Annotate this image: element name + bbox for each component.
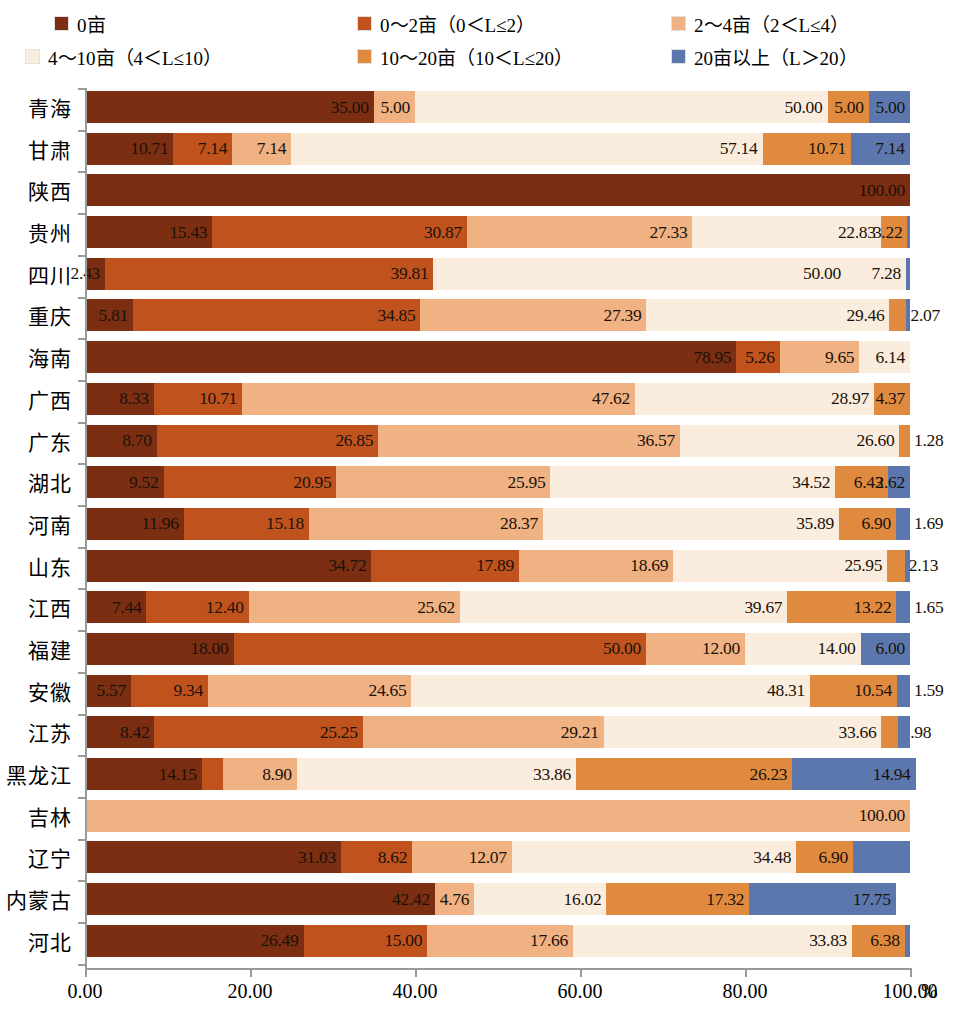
segment-value-label: 10.54 — [854, 680, 897, 701]
y-axis-label: 江西 — [28, 592, 72, 622]
legend-swatch-2to4mu — [672, 17, 685, 30]
chart-row: 甘肃10.717.147.1457.1410.717.14 — [85, 130, 910, 168]
bar-segment: 28.37 — [309, 508, 543, 540]
y-axis-label: 吉林 — [28, 801, 72, 831]
segment-value-label: 7.28 — [872, 263, 906, 284]
y-axis-tick — [78, 672, 85, 674]
bar-segment: 26.60 — [680, 425, 899, 457]
stacked-bar: 11.9615.1828.3735.896.901.69 — [85, 508, 910, 540]
segment-value-label: 2.07 — [906, 305, 939, 326]
x-axis-tick — [250, 968, 252, 977]
y-axis — [85, 88, 87, 968]
bar-segment: 8.62 — [341, 841, 412, 873]
chart-row: 河南11.9615.1828.3735.896.901.69 — [85, 505, 910, 543]
segment-value-label: 30.87 — [424, 222, 467, 243]
y-axis-tick — [78, 422, 85, 424]
chart-row: 贵州15.4330.8727.3322.833.22 — [85, 213, 910, 251]
bar-segment: 3.22 — [881, 216, 908, 248]
segment-value-label: 10.71 — [130, 138, 173, 159]
stacked-bar: 35.005.0050.005.005.00 — [85, 91, 910, 123]
y-axis-label: 海南 — [28, 342, 72, 372]
bar-segment: 4.76 — [435, 883, 474, 915]
chart-row: 河北26.4915.0017.6633.836.38 — [85, 922, 910, 960]
legend-item-over20mu: 20亩以上（L＞20） — [672, 43, 858, 70]
bar-segment — [906, 258, 910, 290]
bar-segment: 35.89 — [543, 508, 839, 540]
stacked-bar-chart: 青海35.005.0050.005.005.00甘肃10.717.147.145… — [0, 82, 956, 1012]
bar-segment — [906, 299, 909, 331]
legend-item-0mu: 0亩 — [55, 10, 106, 37]
y-axis-label: 陕西 — [28, 175, 72, 205]
stacked-bar: 5.8134.8527.3929.462.07 — [85, 299, 910, 331]
y-axis-label: 湖北 — [28, 467, 72, 497]
bar-segment: 17.32 — [606, 883, 749, 915]
bar-segment: 39.81 — [105, 258, 433, 290]
chart-row: 黑龙江14.158.9033.8626.2314.94 — [85, 755, 910, 793]
y-axis-label: 江苏 — [28, 717, 72, 747]
bar-segment: 6.90 — [839, 508, 896, 540]
segment-value-label: 8.33 — [119, 388, 153, 409]
y-axis-label: 山东 — [28, 551, 72, 581]
segment-value-label: 6.90 — [819, 847, 853, 868]
bar-segment: 25.95 — [673, 550, 887, 582]
segment-value-label: 2.62 — [875, 472, 909, 493]
chart-row: 江苏8.4225.2529.2133.661.98 — [85, 713, 910, 751]
segment-value-label: 14.94 — [873, 764, 916, 785]
legend-label-over20mu: 20亩以上（L＞20） — [694, 43, 858, 70]
segment-value-label: 12.07 — [469, 847, 512, 868]
segment-value-label: 6.38 — [870, 930, 904, 951]
bar-segment: 27.39 — [420, 299, 646, 331]
y-axis-label: 福建 — [28, 634, 72, 664]
segment-value-label: 12.00 — [702, 638, 745, 659]
legend-swatch-0to2mu — [358, 17, 371, 30]
legend-swatch-10to20mu — [358, 50, 371, 63]
segment-value-label: 17.32 — [706, 889, 749, 910]
bar-segment: 48.31 — [411, 675, 810, 707]
stacked-bar: 8.3310.7147.6228.974.37 — [85, 383, 910, 415]
segment-value-label: 35.89 — [796, 513, 839, 534]
bar-segment: 25.95 — [336, 466, 550, 498]
x-axis-tick — [910, 968, 912, 977]
segment-value-label: 18.00 — [191, 638, 234, 659]
legend-item-4to10mu: 4～10亩（4＜L≤10） — [26, 43, 222, 70]
segment-value-label: 3.22 — [873, 222, 907, 243]
chart-row: 内蒙古42.424.7616.0217.3217.75 — [85, 880, 910, 918]
segment-value-label: 57.14 — [720, 138, 763, 159]
segment-value-label: 1.28 — [910, 430, 943, 451]
chart-row: 广西8.3310.7147.6228.974.37 — [85, 380, 910, 418]
bar-segment: 14.94 — [792, 758, 915, 790]
bar-segment: 34.85 — [133, 299, 421, 331]
bar-segment: 14.15 — [85, 758, 202, 790]
segment-value-label: 50.00 — [785, 97, 828, 118]
segment-value-label: 34.52 — [792, 472, 835, 493]
bar-segment: 10.71 — [763, 133, 851, 165]
segment-value-label: 33.83 — [809, 930, 852, 951]
bar-segment: 8.42 — [85, 716, 154, 748]
bar-segment: 15.43 — [85, 216, 212, 248]
bar-segment: 5.00 — [828, 91, 869, 123]
bar-segment: 6.00 — [861, 633, 911, 665]
bar-segment: 12.40 — [146, 591, 248, 623]
bar-segment: 7.14 — [232, 133, 291, 165]
bar-segment: 1.59 — [897, 675, 910, 707]
y-axis-label: 安徽 — [28, 676, 72, 706]
y-axis-label: 广西 — [28, 384, 72, 414]
bar-segment: 10.54 — [810, 675, 897, 707]
bar-segment: 1.69 — [896, 508, 910, 540]
segment-value-label: 7.14 — [875, 138, 909, 159]
bar-segment: 24.65 — [208, 675, 411, 707]
y-axis-tick — [78, 547, 85, 549]
segment-value-label: 16.02 — [563, 889, 606, 910]
bar-segment: 5.26 — [736, 341, 779, 373]
segment-value-label: 9.34 — [174, 680, 208, 701]
segment-value-label: 25.95 — [508, 472, 551, 493]
bar-segment: 17.75 — [749, 883, 895, 915]
bar-segment: 10.71 — [154, 383, 242, 415]
y-axis-label: 四川 — [28, 259, 72, 289]
segment-value-label: 100.00 — [859, 180, 910, 201]
stacked-bar: 5.579.3424.6548.3110.541.59 — [85, 675, 910, 707]
bar-segment: 15.00 — [304, 925, 428, 957]
segment-value-label: 12.40 — [206, 597, 249, 618]
stacked-bar: 10.717.147.1457.1410.717.14 — [85, 133, 910, 165]
legend-swatch-0mu — [55, 17, 68, 30]
